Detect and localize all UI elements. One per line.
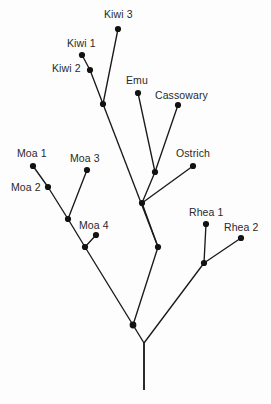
taxon-label-layer: Kiwi 3 Kiwi 1 Kiwi 2 Emu Cassowary Ostri… — [0, 0, 271, 404]
taxon-label-moa2: Moa 2 — [11, 182, 41, 193]
taxon-label-moa1: Moa 1 — [17, 148, 47, 159]
taxon-label-cassowary: Cassowary — [155, 90, 208, 101]
taxon-label-kiwi2: Kiwi 2 — [52, 63, 81, 74]
taxon-label-kiwi1: Kiwi 1 — [67, 38, 96, 49]
phylogenetic-tree-figure: Kiwi 3 Kiwi 1 Kiwi 2 Emu Cassowary Ostri… — [0, 0, 271, 404]
taxon-label-moa4: Moa 4 — [79, 220, 109, 231]
taxon-label-rhea2: Rhea 2 — [224, 222, 258, 233]
taxon-label-emu: Emu — [126, 75, 148, 86]
taxon-label-ostrich: Ostrich — [176, 148, 210, 159]
taxon-label-kiwi3: Kiwi 3 — [104, 9, 133, 20]
taxon-label-moa3: Moa 3 — [70, 153, 100, 164]
taxon-label-rhea1: Rhea 1 — [189, 207, 223, 218]
